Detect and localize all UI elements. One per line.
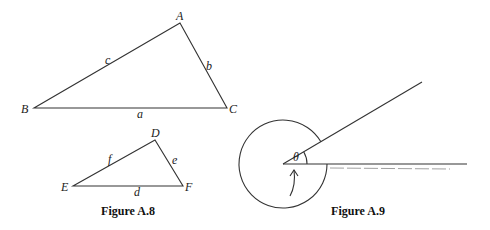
- vertex-label-b: B: [21, 102, 29, 116]
- theta-label: θ: [293, 150, 299, 164]
- triangle-def: D E F d e f: [60, 126, 193, 199]
- faint-ray-trace: [330, 168, 450, 169]
- vertex-label-d: D: [150, 126, 160, 140]
- theta-arc: [304, 152, 307, 164]
- angle-figure: θ: [239, 82, 467, 208]
- triangle-abc-outline: [34, 23, 227, 108]
- caption-figure-a9: Figure A.9: [331, 204, 385, 218]
- terminal-ray: [283, 82, 422, 164]
- side-label-d: d: [134, 185, 141, 199]
- vertex-label-e: E: [60, 180, 69, 194]
- vertex-label-a: A: [175, 9, 184, 23]
- vertex-label-c: C: [229, 102, 238, 116]
- side-label-c: c: [105, 53, 111, 67]
- side-label-b: b: [206, 59, 212, 73]
- side-label-a: a: [137, 107, 143, 121]
- triangle-def-outline: [73, 140, 183, 186]
- caption-figure-a8: Figure A.8: [101, 204, 155, 218]
- figures-canvas: A B C a b c D E F d e f Figure A.8 θ Fig…: [0, 0, 490, 230]
- arc-arrow-tail: [290, 170, 295, 196]
- vertex-label-f: F: [184, 180, 193, 194]
- triangle-abc: A B C a b c: [21, 9, 238, 121]
- side-label-e: e: [172, 153, 178, 167]
